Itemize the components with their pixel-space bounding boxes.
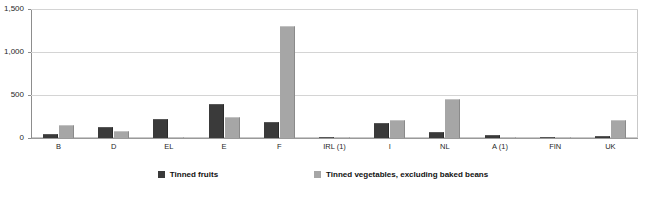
x-tick-label: A (1) [492,142,508,151]
bar[interactable] [429,132,444,139]
gridline [31,138,638,139]
bar[interactable] [43,134,58,138]
bar-group-fin [540,9,571,138]
y-tick-mark [28,52,31,53]
x-tick-label: NL [440,142,450,151]
bar[interactable] [501,137,516,138]
bar[interactable] [280,26,295,138]
y-axis-line [31,9,32,138]
bar-group-i [374,9,405,138]
x-tick-label: E [222,142,227,151]
bar-group-nl [429,9,460,138]
bar[interactable] [225,117,240,138]
y-tick-mark [28,95,31,96]
bar[interactable] [445,99,460,138]
bar[interactable] [374,123,389,139]
bar[interactable] [540,137,555,138]
y-tick-label: 0 [0,134,24,142]
bar-chart: 05001,0001,500 BDELEFIRL (1)INLA (1)FINU… [0,0,646,198]
x-tick-label: UK [605,142,615,151]
y-tick-label: 500 [0,91,24,99]
legend-item-label: Tinned vegetables, excluding baked beans [326,170,488,179]
bar[interactable] [59,125,74,138]
bar[interactable] [390,120,405,139]
legend-item-label: Tinned fruits [170,170,218,179]
bar[interactable] [485,135,500,138]
bar[interactable] [264,122,279,138]
bar[interactable] [153,119,168,138]
legend-swatch-icon [314,171,321,178]
x-tick-label: D [111,142,116,151]
legend-item-tinned-vegetables[interactable]: Tinned vegetables, excluding baked beans [314,170,488,179]
y-tick-mark [28,9,31,10]
x-tick-label: IRL (1) [323,142,346,151]
bar-group-irl-1 [319,9,350,138]
x-tick-label: I [389,142,391,151]
y-tick-label: 1,500 [0,5,24,13]
chart-legend: Tinned fruits Tinned vegetables, excludi… [0,170,646,179]
bar-group-d [98,9,129,138]
bar-group-uk [595,9,626,138]
bar[interactable] [98,127,113,138]
bar[interactable] [114,131,129,138]
y-tick-mark [28,138,31,139]
y-tick-label: 1,000 [0,48,24,56]
legend-item-tinned-fruits[interactable]: Tinned fruits [158,170,218,179]
x-tick-label: EL [164,142,173,151]
x-tick-label: F [277,142,282,151]
bar[interactable] [595,136,610,138]
x-tick-label: B [56,142,61,151]
bar-group-b [43,9,74,138]
bar[interactable] [319,137,334,138]
x-tick-label: FIN [549,142,561,151]
bar-group-f [264,9,295,138]
bar[interactable] [611,120,626,138]
bar-group-e [209,9,240,138]
bar[interactable] [556,137,571,138]
bar[interactable] [169,137,184,138]
bar[interactable] [335,137,350,138]
bar[interactable] [209,104,224,138]
bar-group-a-1 [485,9,516,138]
legend-swatch-icon [158,171,165,178]
bar-group-el [153,9,184,138]
